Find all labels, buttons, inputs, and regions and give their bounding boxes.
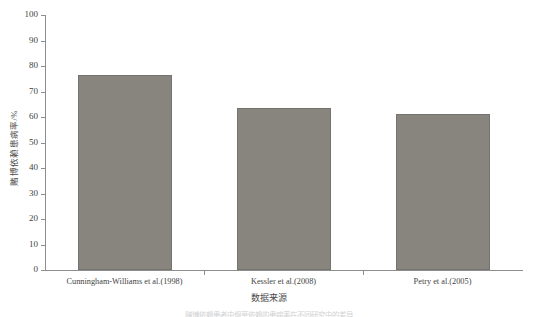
y-tick: 0 [0, 270, 45, 271]
category-label: Kessler et al.(2008) [251, 277, 316, 286]
y-tick-label: 70 [29, 86, 38, 96]
plot-area [45, 15, 522, 270]
y-tick: 80 [0, 66, 45, 67]
x-tick-mark [363, 271, 364, 275]
y-tick-label: 80 [29, 60, 38, 70]
category-label: Cunningham-Williams et al.(1998) [66, 277, 182, 286]
y-tick-mark [41, 270, 45, 271]
y-tick: 40 [0, 168, 45, 169]
y-axis-label: 赌博依赖患病率/% [7, 88, 19, 208]
y-tick-label: 100 [25, 9, 39, 19]
y-tick-label: 0 [34, 264, 39, 274]
y-tick: 50 [0, 143, 45, 144]
y-tick-label: 20 [29, 213, 38, 223]
y-tick: 100 [0, 15, 45, 16]
x-axis-line [45, 270, 523, 271]
y-tick: 70 [0, 92, 45, 93]
category-label: Petry et al.(2005) [414, 277, 472, 286]
figure-caption: 赌博依赖患者中烟草依赖的患病率在不同研究中的差异 [0, 309, 537, 317]
y-tick: 20 [0, 219, 45, 220]
y-tick-label: 10 [29, 239, 38, 249]
x-axis-label: 数据来源 [0, 291, 537, 304]
y-tick-label: 50 [29, 137, 38, 147]
y-tick: 90 [0, 41, 45, 42]
y-tick: 30 [0, 194, 45, 195]
y-tick-label: 40 [29, 162, 38, 172]
bar-chart: 赌博依赖患病率/% 0102030405060708090100 Cunning… [0, 0, 537, 317]
bar [396, 114, 490, 270]
y-tick-label: 60 [29, 111, 38, 121]
y-tick-label: 90 [29, 35, 38, 45]
bar [78, 75, 172, 270]
bar [237, 108, 331, 270]
x-tick-mark [204, 271, 205, 275]
y-tick-label: 30 [29, 188, 38, 198]
y-tick: 60 [0, 117, 45, 118]
y-tick: 10 [0, 245, 45, 246]
